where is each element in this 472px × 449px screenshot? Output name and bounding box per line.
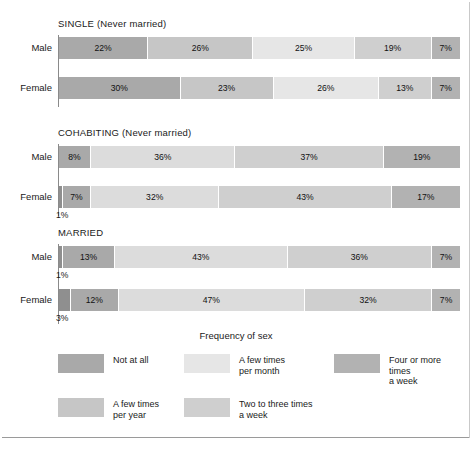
bar-segment: 7% [432,289,460,311]
stacked-bar: 8%36%37%19% [59,146,460,168]
bar-segment: 22% [59,37,148,59]
legend-swatch [58,354,104,373]
legend-item: Four or more times a week [334,354,458,387]
legend-item: Two to three times a week [184,398,313,420]
bar-segment: 25% [253,37,354,59]
legend-title: Frequency of sex [0,330,472,341]
legend-label: A few times per year [113,398,159,420]
bar-segment: 7% [432,37,460,59]
bar-segment [59,289,71,311]
stacked-bar-chart-figure: SINGLE (Never married) Male 22%26%25%19%… [0,0,472,449]
row-label-male: Male [0,246,52,268]
stacked-bar: 7%32%43%17% [59,186,460,208]
stacked-bar: 22%26%25%19%7% [59,37,460,59]
right-divider [469,2,470,438]
bar-segment: 43% [219,186,391,208]
segment-callout-married-female: 3% [56,313,68,323]
legend-label: A few times per month [239,354,285,376]
bar-segment: 32% [305,289,432,311]
bar-segment: 7% [432,246,460,268]
bar-segment: 30% [59,77,181,99]
bar-segment: 43% [115,246,287,268]
bar-segment: 17% [392,186,460,208]
row-label-male: Male [0,37,52,59]
legend-label: Not at all [113,354,149,366]
bar-segment: 8% [59,146,91,168]
row-label-female: Female [0,77,52,99]
bar-segment: 32% [91,186,219,208]
bar-segment: 7% [432,77,460,99]
section-title-single: SINGLE (Never married) [58,18,166,29]
row-label-male: Male [0,146,52,168]
legend-item: A few times per month [184,354,285,376]
legend-swatch [334,354,380,373]
legend-label: Four or more times a week [389,354,458,387]
legend-label: Two to three times a week [239,398,313,420]
legend-swatch [184,354,230,373]
legend-item: Not at all [58,354,149,373]
bar-segment: 23% [181,77,274,99]
bar-segment: 36% [91,146,235,168]
stacked-bar: 13%43%36%7% [59,246,460,268]
stacked-bar: 12%47%32%7% [59,289,460,311]
row-label-female: Female [0,186,52,208]
bar-segment: 19% [355,37,432,59]
row-label-female: Female [0,289,52,311]
stacked-bar: 30%23%26%13%7% [59,77,460,99]
legend-swatch [184,398,230,417]
bar-segment: 36% [288,246,432,268]
section-title-married: MARRIED [58,227,103,238]
bar-segment: 13% [379,77,432,99]
legend-swatch [58,398,104,417]
legend-item: A few times per year [58,398,159,420]
bar-segment: 7% [63,186,91,208]
bottom-divider [2,437,470,438]
segment-callout-cohabiting-female: 1% [56,210,68,220]
segment-callout-married-male: 1% [56,270,68,280]
bar-segment: 47% [119,289,306,311]
bar-segment: 26% [274,77,379,99]
bar-segment: 37% [235,146,383,168]
bar-segment: 12% [71,289,119,311]
bar-segment: 13% [63,246,115,268]
bar-segment: 26% [148,37,253,59]
bar-segment: 19% [384,146,460,168]
section-title-cohabiting: COHABITING (Never married) [58,127,191,138]
